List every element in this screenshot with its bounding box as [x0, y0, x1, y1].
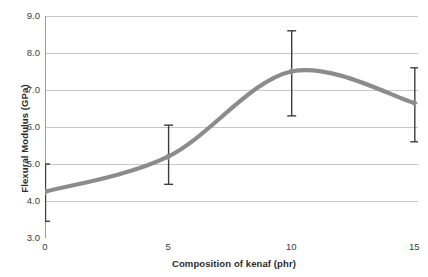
- data-point-markers: [45, 68, 418, 195]
- error-bars: [45, 31, 418, 222]
- y-tick-label: 4.0: [16, 196, 40, 206]
- x-tick-label: 5: [153, 241, 183, 252]
- y-tick-label: 8.0: [16, 48, 40, 58]
- gridlines: [45, 17, 418, 239]
- y-tick-label: 5.0: [16, 159, 40, 169]
- x-tick-label: 0: [30, 241, 60, 252]
- flexural-modulus-chart: Flexural Modulus (GPa) 3.04.05.06.07.08.…: [0, 0, 428, 277]
- x-tick-label: 15: [399, 241, 428, 252]
- plot-area: [45, 16, 418, 238]
- x-tick-label: 10: [276, 241, 306, 252]
- data-series-line: [45, 70, 414, 192]
- y-axis-tick-labels: 3.04.05.06.07.08.09.0: [12, 0, 40, 277]
- plot-svg: [45, 16, 418, 238]
- y-tick-label: 9.0: [16, 11, 40, 21]
- y-tick-label: 6.0: [16, 122, 40, 132]
- x-axis-title: Composition of kenaf (phr): [40, 258, 428, 269]
- y-tick-label: 7.0: [16, 85, 40, 95]
